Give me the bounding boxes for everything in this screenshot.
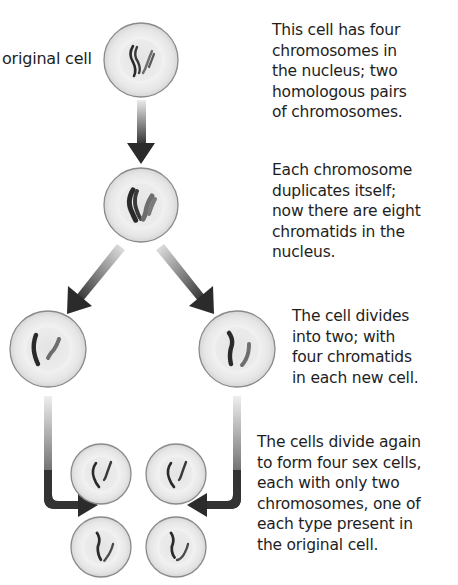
step-4-line: each type present in: [257, 514, 421, 535]
step-2-line: nucleus.: [272, 242, 421, 263]
arrow-to-right-daughter: [156, 244, 214, 314]
daughter-cell-left: [10, 311, 86, 387]
sex-cell-bottom-right: [146, 517, 206, 577]
sex-cell-bottom-left: [71, 517, 131, 577]
step-2-description: Each chromosome duplicates itself; now t…: [272, 160, 421, 263]
step-1-line: the nucleus; two: [272, 61, 407, 82]
step-2-line: chromatids in the: [272, 222, 421, 243]
step-4-line: chromosomes, one of: [257, 494, 421, 515]
step-1-description: This cell has four chromosomes in the nu…: [272, 20, 407, 123]
step-2-line: now there are eight: [272, 201, 421, 222]
step-4-line: The cells divide again: [257, 432, 421, 453]
step-1-line: homologous pairs: [272, 82, 407, 103]
step-2-line: Each chromosome: [272, 160, 421, 181]
daughter-cell-right: [199, 311, 275, 387]
step-4-line: each with only two: [257, 473, 421, 494]
step-2-line: duplicates itself;: [272, 181, 421, 202]
step-3-line: in each new cell.: [292, 368, 419, 389]
arrow-to-left-daughter: [67, 244, 125, 314]
step-1-line: chromosomes in: [272, 41, 407, 62]
step-3-line: four chromatids: [292, 347, 419, 368]
step-4-description: The cells divide again to form four sex …: [257, 432, 421, 555]
sex-cell-top-left: [71, 444, 131, 504]
step-3-description: The cell divides into two; with four chr…: [292, 306, 419, 388]
step-3-line: The cell divides: [292, 306, 419, 327]
step-1-line: of chromosomes.: [272, 102, 407, 123]
original-cell: [104, 23, 178, 97]
arrow-original-to-duplicated: [127, 100, 155, 164]
original-cell-label: original cell: [2, 49, 92, 70]
step-3-line: into two; with: [292, 327, 419, 348]
step-4-line: the original cell.: [257, 535, 421, 556]
sex-cell-top-right: [146, 444, 206, 504]
step-4-line: to form four sex cells,: [257, 453, 421, 474]
step-1-line: This cell has four: [272, 20, 407, 41]
duplicated-cell: [104, 168, 178, 242]
